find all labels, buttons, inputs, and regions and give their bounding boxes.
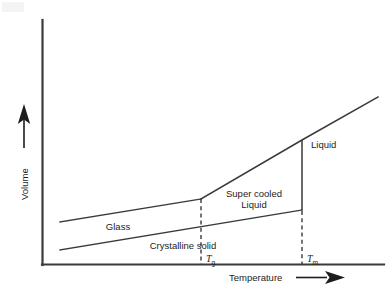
tg-subscript: g (212, 259, 216, 267)
figure-container: Volume Temperature Glass Crystalline sol… (0, 0, 392, 300)
x-axis-title: Temperature (229, 272, 282, 283)
glass-curve (60, 199, 201, 222)
y-axis-title: Volume (19, 168, 30, 200)
supercooled-liquid-curve (201, 97, 378, 199)
tm-subscript: m (313, 259, 319, 266)
super-cooled-liquid-label-line2: Liquid (241, 199, 266, 210)
cropped-caption-remnant (0, 286, 392, 300)
temperature-arrow-head (325, 271, 345, 284)
liquid-label: Liquid (311, 139, 336, 150)
glass-label: Glass (106, 221, 131, 232)
tm-tick-label: Tm (307, 253, 319, 266)
crystalline-solid-label: Crystalline solid (150, 240, 217, 251)
plot-svg: Volume Temperature Glass Crystalline sol… (0, 0, 392, 300)
super-cooled-liquid-label-line1: Super cooled (226, 188, 282, 199)
